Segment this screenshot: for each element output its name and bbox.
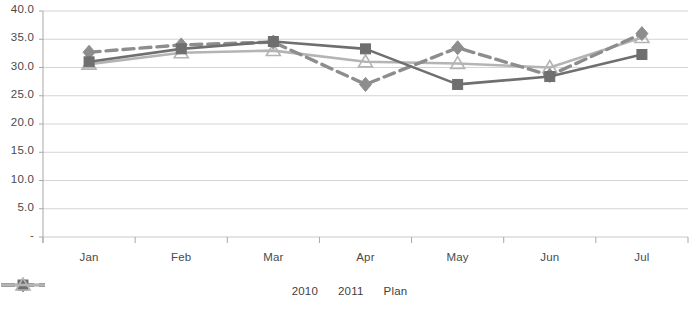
x-tick-label: May <box>412 251 504 263</box>
data-point-marker <box>360 77 372 91</box>
x-tick-label: Mar <box>227 251 319 263</box>
y-tick-label: 10.0 <box>0 173 34 185</box>
data-point-marker <box>453 79 463 89</box>
data-point-marker <box>84 57 94 67</box>
legend-label: 2010 <box>292 285 318 297</box>
x-tick-label: Jun <box>504 251 596 263</box>
legend-label: Plan <box>384 285 408 297</box>
y-tick-label: 25.0 <box>0 88 34 100</box>
x-tick-label: Apr <box>319 251 411 263</box>
data-point-marker <box>545 72 555 82</box>
legend-label: 2011 <box>338 285 364 297</box>
x-tick-label: Jan <box>43 251 135 263</box>
y-tick-label: 30.0 <box>0 60 34 72</box>
series-2010 <box>83 27 648 92</box>
x-tick-label: Feb <box>135 251 227 263</box>
y-tick-label: 15.0 <box>0 144 34 156</box>
y-tick-label: 20.0 <box>0 116 34 128</box>
chart-legend: 20102011Plan <box>0 277 699 305</box>
x-tick-label: Jul <box>596 251 688 263</box>
legend-item-plan[interactable]: Plan <box>384 285 408 297</box>
data-point-marker <box>268 37 278 47</box>
data-point-marker <box>637 50 647 60</box>
legend-item-2011[interactable]: 2011 <box>338 285 364 297</box>
data-point-marker <box>452 41 464 55</box>
line-chart: 40.035.030.025.020.015.010.05.0- JanFebM… <box>0 0 699 309</box>
y-tick-label: 5.0 <box>0 201 34 213</box>
data-point-marker <box>176 44 186 54</box>
data-point-marker <box>361 44 371 54</box>
legend-item-2010[interactable]: 2010 <box>292 285 318 297</box>
y-tick-label: 40.0 <box>0 3 34 15</box>
y-tick-label: - <box>0 229 34 241</box>
y-tick-label: 35.0 <box>0 31 34 43</box>
legend-swatch-triangle-icon <box>0 277 46 293</box>
